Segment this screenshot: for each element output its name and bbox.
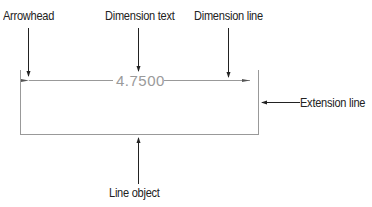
dimension-value-text: 4.7500 xyxy=(116,72,165,89)
arrowhead-label: Arrowhead xyxy=(3,8,54,23)
dimension-line-label: Dimension line xyxy=(194,8,263,23)
extension-line-label: Extension line xyxy=(300,95,365,110)
dimension-text-label: Dimension text xyxy=(105,8,175,23)
line-object-label: Line object xyxy=(109,185,160,200)
